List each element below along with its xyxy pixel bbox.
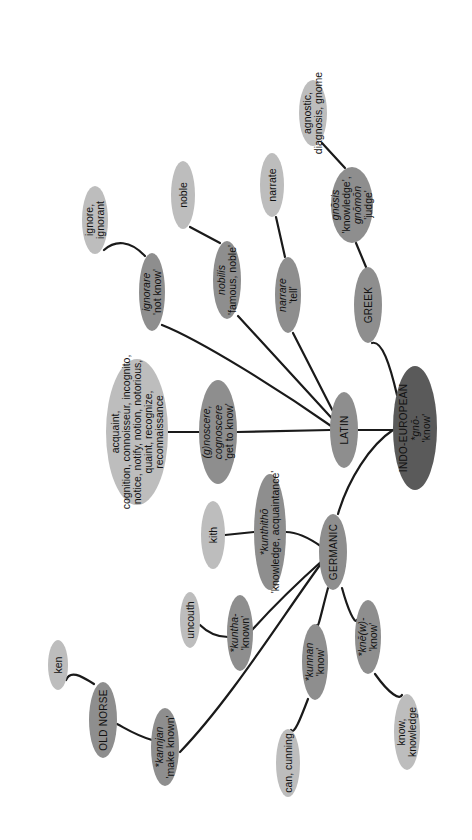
label-line: reconnaissance	[153, 395, 165, 469]
label-line: agnostic,	[301, 92, 313, 134]
node-uncouth: uncouth	[180, 592, 200, 648]
edge-kuntha-to-uncouth	[200, 625, 228, 637]
edge-kannjan-to-old-norse	[117, 724, 152, 740]
edge-kunnan-to-can-cunning	[291, 699, 308, 731]
node-ken: ken	[48, 640, 68, 690]
label-line: GERMANIC	[328, 524, 339, 580]
node-latin: LATIN	[330, 392, 358, 468]
node-label: ignore,ignorant	[83, 201, 107, 239]
node-label: narrate	[266, 168, 278, 201]
label-line: 'know'	[314, 648, 326, 677]
edge-germanic-to-knew	[342, 588, 357, 621]
label-line: ignorant	[94, 201, 106, 239]
label-line: ken	[52, 656, 64, 673]
node-old-norse: OLD NORSE	[89, 682, 117, 758]
label-line: cognoscere	[212, 405, 224, 459]
node-indo-european: INDO-EUROPEAN*gnō-'know'	[393, 366, 437, 490]
edge-germanic-to-kunthitho	[286, 532, 322, 547]
label-line: INDO-EUROPEAN	[398, 384, 409, 472]
node-label: ignorare'not know'	[140, 269, 164, 315]
edge-germanic-to-kunnan	[317, 588, 328, 626]
node-kannjan: *kannjan'make known'	[151, 708, 179, 786]
node-knew: *knē(w)-'know'	[355, 600, 381, 674]
label-line: kith	[207, 527, 219, 544]
label-line: *gnō-	[410, 415, 421, 441]
node-label: (g)noscere,cognoscere'get to know'	[200, 403, 235, 461]
edge-latin-to-ignorare	[162, 325, 334, 428]
node-label: LATIN	[339, 415, 350, 444]
label-line: ignorare	[140, 273, 152, 312]
label-line: 'make known'	[164, 716, 176, 779]
label-line: *kunnan	[303, 643, 315, 682]
node-ignore: ignore,ignorant	[82, 186, 108, 254]
node-gnosis: gnōsis'knowledge',gnōmōn'judge'	[329, 167, 374, 243]
node-kuntha: *kuntha-'known'	[227, 595, 253, 671]
edge-indo-european-to-greek	[372, 343, 397, 395]
edge-old-norse-to-ken	[66, 674, 94, 684]
node-greek: GREEK	[354, 267, 382, 343]
label-line: *kuntha-	[228, 613, 240, 653]
label-line: *kunthithō	[258, 508, 270, 555]
node-kith: kith	[201, 501, 225, 569]
label-line: knowledge	[406, 707, 418, 757]
label-line: nobilis	[215, 264, 227, 295]
label-line: narrare	[276, 278, 288, 312]
label-line: LATIN	[339, 415, 350, 444]
label-line: *kannjan	[153, 726, 165, 767]
label-line: GREEK	[363, 287, 374, 324]
edge-nobilis-to-noble	[190, 227, 220, 243]
node-narrare: narrare'tell'	[275, 257, 301, 333]
label-line: 'famous, noble'	[226, 245, 238, 315]
label-line: 'judge'	[362, 190, 374, 220]
node-kunnan: *kunnan'know'	[302, 624, 328, 700]
nodes-layer: INDO-EUROPEAN*gnō-'know'LATINGREEKGERMAN…	[48, 72, 437, 797]
label-line: can, cunning	[282, 733, 294, 793]
edge-narrare-to-narrate	[276, 217, 285, 257]
node-label: GREEK	[363, 287, 374, 324]
label-line: *knē(w)-	[356, 617, 368, 657]
node-label: *kuntha-'known'	[228, 613, 252, 653]
label-line: diagnosis, gnome	[312, 72, 324, 154]
edge-germanic-to-kannjan	[180, 565, 320, 752]
node-acquaint: acquaint,cognition, connoisseur, incogni…	[106, 355, 168, 510]
label-line: (g)noscere,	[200, 405, 212, 458]
label-line: narrate	[266, 168, 278, 201]
node-narrate: narrate	[260, 153, 284, 217]
edge-knew-to-know-knowledge	[375, 674, 402, 697]
label-line: 'know'	[421, 414, 432, 443]
label-line: 'know'	[367, 623, 379, 652]
node-kunthitho: *kunthithō'knowledge, acquaintance'	[254, 471, 286, 594]
node-ignorare: ignorare'not know'	[139, 253, 165, 331]
node-label: can, cunning	[282, 733, 294, 793]
edge-gnosis-to-agnostic	[322, 143, 345, 168]
edge-ignorare-to-ignore	[104, 243, 145, 256]
node-label: noble	[177, 182, 189, 208]
label-line: 'tell'	[287, 286, 299, 303]
edge-kunthitho-to-kith	[225, 532, 254, 535]
node-label: uncouth	[184, 601, 196, 639]
node-can-cunning: can, cunning	[276, 729, 300, 797]
label-line: 'get to know'	[223, 403, 235, 461]
label-line: ignore,	[83, 204, 95, 236]
node-label: GERMANIC	[328, 524, 339, 580]
label-line: 'not know'	[151, 269, 163, 315]
node-label: ken	[52, 656, 64, 673]
node-agnostic: agnostic,diagnosis, gnome	[299, 72, 327, 154]
node-label: *knē(w)-'know'	[356, 617, 380, 657]
node-nobilis: nobilis'famous, noble'	[213, 241, 241, 319]
etymology-diagram: INDO-EUROPEAN*gnō-'know'LATINGREEKGERMAN…	[0, 0, 472, 840]
node-germanic: GERMANIC	[319, 514, 347, 590]
label-line: uncouth	[184, 601, 196, 639]
label-line: 'knowledge, acquaintance'	[269, 471, 281, 594]
edge-greek-to-gnosis	[356, 243, 366, 267]
label-line: 'known'	[239, 616, 251, 650]
label-line: know,	[395, 719, 407, 746]
node-noble: noble	[171, 161, 195, 229]
node-label: OLD NORSE	[98, 689, 109, 751]
edge-latin-to-gnoscere	[237, 430, 330, 432]
node-label: *kunnan'know'	[303, 643, 327, 682]
node-label: agnostic,diagnosis, gnome	[301, 72, 325, 154]
node-label: kith	[207, 527, 219, 544]
node-know-knowledge: know,knowledge	[394, 694, 420, 770]
label-line: OLD NORSE	[98, 689, 109, 751]
